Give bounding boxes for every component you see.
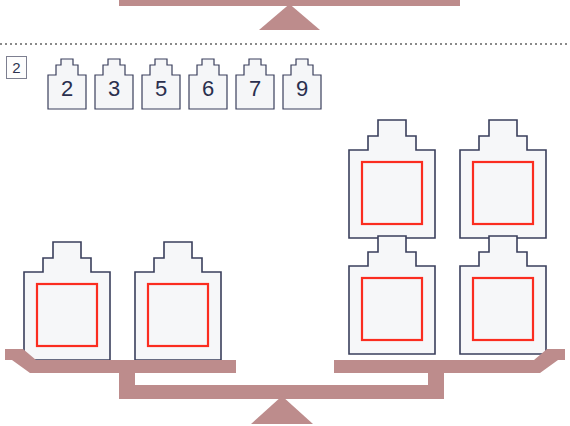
balance-scale: [0, 330, 570, 426]
weight-block[interactable]: [458, 118, 548, 240]
number-tile[interactable]: 5: [141, 58, 181, 110]
number-tile[interactable]: 7: [235, 58, 275, 110]
previous-balance-fulcrum: [259, 4, 320, 30]
number-tile[interactable]: 3: [94, 58, 134, 110]
number-tile[interactable]: 6: [188, 58, 228, 110]
number-tile[interactable]: 9: [282, 58, 322, 110]
previous-question-balance: [0, 0, 570, 36]
question-number-box: 2: [6, 56, 27, 79]
balance-fulcrum: [251, 396, 313, 424]
weight-block[interactable]: [347, 118, 437, 240]
section-divider: [0, 43, 570, 45]
right-pan-tray: [334, 349, 565, 373]
worksheet-page: 2 2 3 5 6 7 9: [0, 0, 570, 426]
number-tile[interactable]: 2: [47, 58, 87, 110]
